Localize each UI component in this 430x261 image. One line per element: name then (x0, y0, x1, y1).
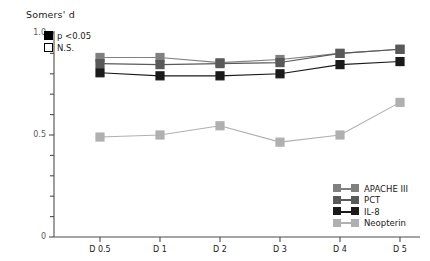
filled-square-icon (44, 31, 53, 40)
data-point-marker (216, 72, 224, 80)
series-legend-key-icon (333, 184, 359, 193)
x-tick-label: D 5 (380, 245, 420, 254)
legend-item-p-value: p <0.05 (44, 30, 91, 41)
legend-item-not-significant: N.S. (44, 42, 91, 53)
series-legend-label: Neopterin (364, 218, 406, 228)
data-point-marker (276, 70, 284, 78)
x-tick-label: D 3 (260, 245, 300, 254)
data-point-marker (276, 59, 284, 67)
x-tick-label: D 0.5 (80, 245, 120, 254)
data-point-marker (216, 60, 224, 68)
legend-label-p-value: p <0.05 (57, 31, 91, 41)
data-point-marker (396, 98, 404, 106)
data-point-marker (156, 61, 164, 69)
y-tick-label: 0.5 (22, 130, 46, 139)
series-legend-key-icon (333, 219, 359, 228)
data-point-marker (336, 61, 344, 69)
data-point-marker (336, 49, 344, 57)
data-point-marker (396, 45, 404, 53)
somers-d-line-chart: Somers' d 00.51.0 D 0.5D 1D 2D 3D 4D 5 p… (0, 0, 430, 261)
x-tick-label: D 1 (140, 245, 180, 254)
x-tick-label: D 4 (320, 245, 360, 254)
data-point-marker (156, 131, 164, 139)
legend-label-not-significant: N.S. (57, 43, 74, 53)
hollow-square-icon (44, 43, 53, 52)
data-point-marker (216, 122, 224, 130)
data-point-marker (96, 69, 104, 77)
y-tick-label: 0 (22, 232, 46, 241)
series-legend-item-il-8: IL-8 (333, 206, 408, 218)
data-point-marker (276, 138, 284, 146)
data-point-marker (96, 133, 104, 141)
series-legend-item-apache-iii: APACHE III (333, 183, 408, 195)
data-point-marker (336, 131, 344, 139)
y-tick-label: 1.0 (22, 28, 46, 37)
series-legend-key-icon (333, 196, 359, 205)
series-legend-item-pct: PCT (333, 195, 408, 207)
data-point-marker (96, 60, 104, 68)
series-legend: APACHE IIIPCTIL-8Neopterin (333, 183, 408, 229)
series-layer (96, 45, 404, 146)
series-legend-label: IL-8 (364, 207, 380, 217)
data-point-marker (156, 72, 164, 80)
x-tick-label: D 2 (200, 245, 240, 254)
data-point-marker (396, 58, 404, 66)
series-legend-label: APACHE III (364, 184, 408, 194)
significance-legend: p <0.05 N.S. (44, 30, 91, 54)
series-legend-key-icon (333, 207, 359, 216)
series-legend-label: PCT (364, 195, 380, 205)
series-legend-item-neopterin: Neopterin (333, 218, 408, 230)
